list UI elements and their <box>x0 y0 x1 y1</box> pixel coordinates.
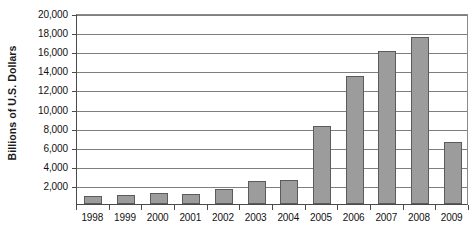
y-axis-title: Billions of U.S. Dollars <box>0 0 22 205</box>
bar-2008 <box>411 37 429 204</box>
bar-2003 <box>248 181 266 204</box>
y-axis-tick-label: 2,000 <box>43 180 68 191</box>
y-axis-tick-label: 20,000 <box>38 9 68 20</box>
y-axis-tick-label: 6,000 <box>43 142 68 153</box>
bar-2001 <box>182 194 200 205</box>
x-axis-tick-label-1999: 1999 <box>114 212 136 223</box>
x-axis-tick-label-2008: 2008 <box>408 212 430 223</box>
x-axis-tickmark <box>141 205 142 210</box>
y-axis-tick-label: 4,000 <box>43 161 68 172</box>
y-axis-tick-label: 18,000 <box>38 28 68 39</box>
x-axis-tickmark <box>305 205 306 210</box>
bar-2009 <box>444 142 462 204</box>
bar-2006 <box>346 76 364 204</box>
x-axis: 1998199920002001200220032004200520062007… <box>76 205 468 244</box>
y-axis-tick-label: 10,000 <box>38 104 68 115</box>
x-axis-tick-label-2003: 2003 <box>245 212 267 223</box>
y-axis-tick-label: 14,000 <box>38 66 68 77</box>
x-axis-tick-label-2004: 2004 <box>277 212 299 223</box>
x-axis-tickmark <box>403 205 404 210</box>
x-axis-tickmark <box>468 205 469 210</box>
bar-2007 <box>378 51 396 204</box>
x-axis-tickmark <box>109 205 110 210</box>
x-axis-tick-label-2005: 2005 <box>310 212 332 223</box>
x-axis-tickmark <box>207 205 208 210</box>
plot-area <box>76 14 468 205</box>
x-axis-tickmark <box>239 205 240 210</box>
x-axis-tick-label-2001: 2001 <box>179 212 201 223</box>
bars-layer <box>77 15 467 204</box>
x-axis-tick-label-2007: 2007 <box>375 212 397 223</box>
bar-2004 <box>280 180 298 204</box>
bar-2000 <box>150 193 168 204</box>
bar-2002 <box>215 189 233 204</box>
x-axis-tick-label-2006: 2006 <box>343 212 365 223</box>
y-axis-tick-label: 16,000 <box>38 47 68 58</box>
y-axis-tick-labels: 2,0004,0006,0008,00010,00012,00014,00016… <box>22 0 72 244</box>
bar-1999 <box>117 195 135 204</box>
y-axis-tick-label: 12,000 <box>38 85 68 96</box>
y-axis-title-label: Billions of U.S. Dollars <box>5 45 17 160</box>
x-axis-tick-label-2000: 2000 <box>147 212 169 223</box>
x-axis-tick-label-2009: 2009 <box>441 212 463 223</box>
bar-1998 <box>84 196 102 204</box>
x-axis-tick-label-2002: 2002 <box>212 212 234 223</box>
x-axis-tickmark <box>370 205 371 210</box>
x-axis-tickmark <box>337 205 338 210</box>
x-axis-tickmark <box>76 205 77 210</box>
x-axis-tickmark <box>435 205 436 210</box>
x-axis-tickmark <box>174 205 175 210</box>
x-axis-tickmark <box>272 205 273 210</box>
x-axis-tick-label-1998: 1998 <box>81 212 103 223</box>
bar-chart: Billions of U.S. Dollars 2,0004,0006,000… <box>0 0 475 244</box>
bar-2005 <box>313 126 331 204</box>
y-axis-tick-label: 8,000 <box>43 123 68 134</box>
